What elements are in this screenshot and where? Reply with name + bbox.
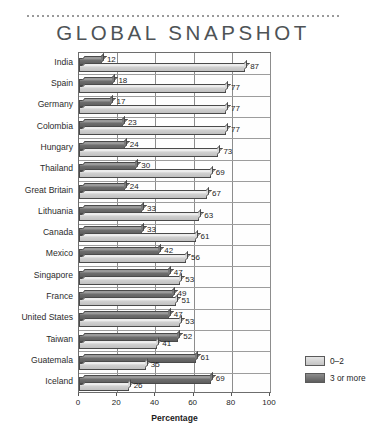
bar-side-face bbox=[225, 102, 228, 112]
chart-row: 3361 bbox=[79, 224, 270, 245]
legend-swatch-light bbox=[305, 356, 325, 366]
category-label: Canada bbox=[0, 228, 73, 237]
chart-row: 3069 bbox=[79, 160, 270, 181]
bar-side-face bbox=[128, 379, 131, 389]
bar-side-face bbox=[175, 294, 178, 304]
category-label: Germany bbox=[0, 100, 73, 109]
bar-top-face bbox=[82, 233, 201, 236]
chart-row: 6926 bbox=[79, 373, 270, 394]
bar-light bbox=[79, 107, 226, 114]
bar-light bbox=[79, 256, 186, 263]
chart-row: 2467 bbox=[79, 181, 270, 202]
bar-value-label: 51 bbox=[181, 297, 190, 305]
bar-value-label: 63 bbox=[204, 212, 213, 220]
bar-value-label: 53 bbox=[185, 318, 194, 326]
category-label: Singapore bbox=[0, 271, 73, 280]
bar-side-face bbox=[217, 145, 220, 155]
x-axis-tick-label: 0 bbox=[63, 398, 93, 407]
bar-top-face bbox=[82, 148, 223, 151]
legend-swatch-dark bbox=[305, 373, 325, 383]
category-label: Great Britain bbox=[0, 186, 73, 195]
x-axis-tick-label: 80 bbox=[216, 398, 246, 407]
category-label: India bbox=[0, 58, 73, 67]
bar-side-face bbox=[225, 123, 228, 133]
x-axis-tick bbox=[269, 393, 270, 396]
bar-value-label: 73 bbox=[223, 148, 232, 156]
bar-light bbox=[79, 384, 129, 391]
bar-top-face bbox=[82, 318, 185, 321]
legend-label-light: 0–2 bbox=[330, 356, 344, 367]
bar-value-label: 69 bbox=[216, 375, 225, 383]
bar-side-face bbox=[210, 372, 213, 382]
chart-row: 4951 bbox=[79, 287, 270, 308]
bar-side-face bbox=[112, 74, 115, 84]
bar-top-face bbox=[82, 63, 250, 66]
bar-value-label: 69 bbox=[216, 169, 225, 177]
bar-top-face bbox=[82, 340, 162, 343]
bar-side-face bbox=[179, 273, 182, 283]
bar-light bbox=[79, 86, 226, 93]
bar-side-face bbox=[168, 308, 171, 318]
bar-light bbox=[79, 171, 211, 178]
chart-row: 4753 bbox=[79, 309, 270, 330]
bar-side-face bbox=[124, 180, 127, 190]
category-label: Guatemala bbox=[0, 356, 73, 365]
bar-top-face bbox=[82, 226, 147, 229]
chart-row: 1877 bbox=[79, 74, 270, 95]
bar-side-face bbox=[195, 230, 198, 240]
x-axis-tick-label: 20 bbox=[101, 398, 131, 407]
chart-row: 1287 bbox=[79, 53, 270, 74]
bar-light bbox=[79, 150, 218, 157]
bar-light bbox=[79, 363, 146, 370]
bar-top-face bbox=[82, 290, 178, 293]
bar-light bbox=[79, 128, 226, 135]
chart-row: 2473 bbox=[79, 138, 270, 159]
bar-value-label: 41 bbox=[162, 340, 171, 348]
bar-top-face bbox=[82, 247, 164, 250]
bar-light bbox=[79, 192, 207, 199]
category-label: Thailand bbox=[0, 164, 73, 173]
bar-value-label: 77 bbox=[231, 105, 240, 113]
bar-side-face bbox=[177, 330, 180, 340]
chart-row: 1777 bbox=[79, 96, 270, 117]
bar-top-face bbox=[82, 354, 201, 357]
x-axis-tick bbox=[116, 393, 117, 396]
bar-side-face bbox=[141, 223, 144, 233]
bar-top-face bbox=[82, 333, 183, 336]
bar-top-face bbox=[82, 126, 231, 129]
x-axis-tick bbox=[78, 393, 79, 396]
category-label: Colombia bbox=[0, 122, 73, 131]
bar-side-face bbox=[206, 187, 209, 197]
bar-light bbox=[79, 235, 196, 242]
category-label: United States bbox=[0, 313, 73, 322]
bar-side-face bbox=[141, 202, 144, 212]
bar-side-face bbox=[156, 337, 159, 347]
bar-light bbox=[79, 320, 180, 327]
bar-value-label: 77 bbox=[231, 126, 240, 134]
bar-top-face bbox=[82, 361, 151, 364]
bar-top-face bbox=[82, 276, 185, 279]
bar-side-face bbox=[122, 116, 125, 126]
bar-side-face bbox=[225, 81, 228, 91]
bar-top-face bbox=[82, 84, 231, 87]
page-title: GLOBAL SNAPSHOT bbox=[0, 21, 366, 45]
category-label: Lithuania bbox=[0, 207, 73, 216]
x-axis-tick-label: 40 bbox=[139, 398, 169, 407]
bar-side-face bbox=[135, 159, 138, 169]
bar-side-face bbox=[145, 358, 148, 368]
bar-top-face bbox=[82, 212, 204, 215]
bar-top-face bbox=[82, 190, 212, 193]
bar-top-face bbox=[82, 311, 174, 314]
x-axis-tick bbox=[193, 393, 194, 396]
bar-light bbox=[79, 65, 245, 72]
bar-top-face bbox=[82, 269, 174, 272]
bar-light bbox=[79, 299, 176, 306]
category-label: France bbox=[0, 292, 73, 301]
x-axis-tick-label: 60 bbox=[178, 398, 208, 407]
category-label: Spain bbox=[0, 79, 73, 88]
chart-row: 2377 bbox=[79, 117, 270, 138]
category-label: Taiwan bbox=[0, 335, 73, 344]
bar-value-label: 61 bbox=[201, 233, 210, 241]
bar-value-label: 61 bbox=[201, 354, 210, 362]
x-axis-tick-label: 100 bbox=[254, 398, 284, 407]
